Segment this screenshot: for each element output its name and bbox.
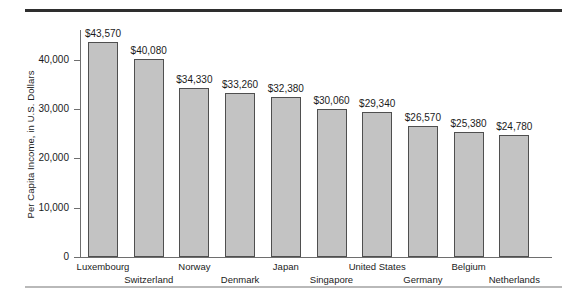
y-tick-label: 10,000	[9, 203, 69, 213]
bar-value-label: $40,080	[121, 45, 177, 56]
x-axis-label: Denmark	[200, 274, 280, 285]
bar[interactable]	[317, 109, 347, 257]
bar[interactable]	[88, 42, 118, 257]
x-axis-label: Norway	[154, 261, 234, 272]
y-axis-line	[80, 30, 81, 258]
bar[interactable]	[408, 126, 438, 257]
x-axis-line	[80, 257, 552, 258]
x-axis-label: Germany	[383, 274, 463, 285]
bar-value-label: $29,340	[349, 98, 405, 109]
bar[interactable]	[271, 97, 301, 257]
bar[interactable]	[179, 88, 209, 257]
bar-value-label: $43,570	[75, 28, 131, 39]
x-axis-label: Luxembourg	[63, 261, 143, 272]
bar[interactable]	[499, 135, 529, 257]
bar[interactable]	[454, 132, 484, 257]
x-axis-label: Japan	[246, 261, 326, 272]
chart-figure: Per Capita Income, in U.S. Dollars 010,0…	[0, 0, 577, 300]
y-tick-label: 30,000	[9, 104, 69, 114]
x-axis-label: Switzerland	[109, 274, 189, 285]
y-tick-mark	[74, 158, 81, 159]
y-tick-label: 0	[9, 252, 69, 262]
bar[interactable]	[225, 93, 255, 257]
y-tick-mark	[74, 257, 81, 258]
y-tick-mark	[74, 60, 81, 61]
y-tick-label: 20,000	[9, 153, 69, 163]
y-tick-mark	[74, 109, 81, 110]
x-axis-label: Netherlands	[474, 274, 554, 285]
bar-value-label: $24,780	[486, 121, 542, 132]
bar[interactable]	[362, 112, 392, 257]
x-axis-label: United States	[337, 261, 417, 272]
y-tick-mark	[74, 208, 81, 209]
bar-value-label: $32,380	[258, 83, 314, 94]
y-tick-label: 40,000	[9, 55, 69, 65]
bar[interactable]	[134, 59, 164, 257]
x-axis-label: Belgium	[429, 261, 509, 272]
bar-chart-plot-area: Per Capita Income, in U.S. Dollars 010,0…	[0, 0, 577, 300]
x-axis-label: Singapore	[292, 274, 372, 285]
